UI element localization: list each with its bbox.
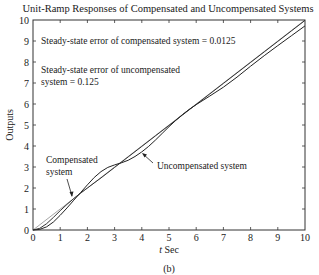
plot-lines (33, 20, 305, 230)
x-tick-label: 3 (112, 232, 117, 243)
y-tick-label: 7 (24, 78, 29, 89)
x-axis-label-unit: Sec (162, 244, 180, 255)
annotation-compensated-line1: Compensated (46, 155, 98, 165)
x-tick-label: 7 (221, 232, 226, 243)
annotation-ss-uncompensated-line1: Steady-state error of uncompensated (41, 65, 180, 75)
y-tick-label: 8 (24, 57, 29, 68)
x-axis-label: t Sec (159, 244, 179, 255)
x-tick-label: 5 (167, 232, 172, 243)
annotation-compensated-line2: system (46, 167, 73, 177)
chart: Unit-Ramp Responses of Compensated and U… (0, 0, 319, 275)
annotation-ss-uncompensated-line2: system = 0.125 (41, 77, 99, 87)
x-tick-label: 8 (248, 232, 253, 243)
x-tick-label: 2 (85, 232, 90, 243)
y-axis-label: Outputs (4, 109, 15, 141)
y-axis-ticks: 012345678910 (19, 15, 305, 236)
x-tick-label: 6 (194, 232, 199, 243)
x-tick-label: 10 (300, 232, 310, 243)
y-tick-label: 10 (19, 15, 29, 26)
annotation-compensated-arrowhead (70, 192, 74, 198)
y-tick-label: 3 (24, 162, 29, 173)
y-tick-label: 4 (24, 141, 29, 152)
y-tick-label: 9 (24, 36, 29, 47)
y-tick-label: 2 (24, 183, 29, 194)
y-tick-label: 6 (24, 99, 29, 110)
x-tick-label: 4 (139, 232, 144, 243)
series-line-uncompensated-system (33, 26, 305, 230)
annotation-uncompensated: Uncompensated system (157, 161, 248, 171)
x-tick-label: 9 (275, 232, 280, 243)
y-tick-label: 5 (24, 120, 29, 131)
y-tick-label: 0 (24, 225, 29, 236)
x-tick-label: 0 (31, 232, 36, 243)
series-line-compensated-system (33, 20, 305, 230)
chart-title: Unit-Ramp Responses of Compensated and U… (22, 3, 313, 14)
figure-caption: (b) (163, 263, 175, 275)
y-tick-label: 1 (24, 204, 29, 215)
x-tick-label: 1 (58, 232, 63, 243)
annotation-ss-compensated: Steady-state error of compensated system… (41, 36, 236, 46)
